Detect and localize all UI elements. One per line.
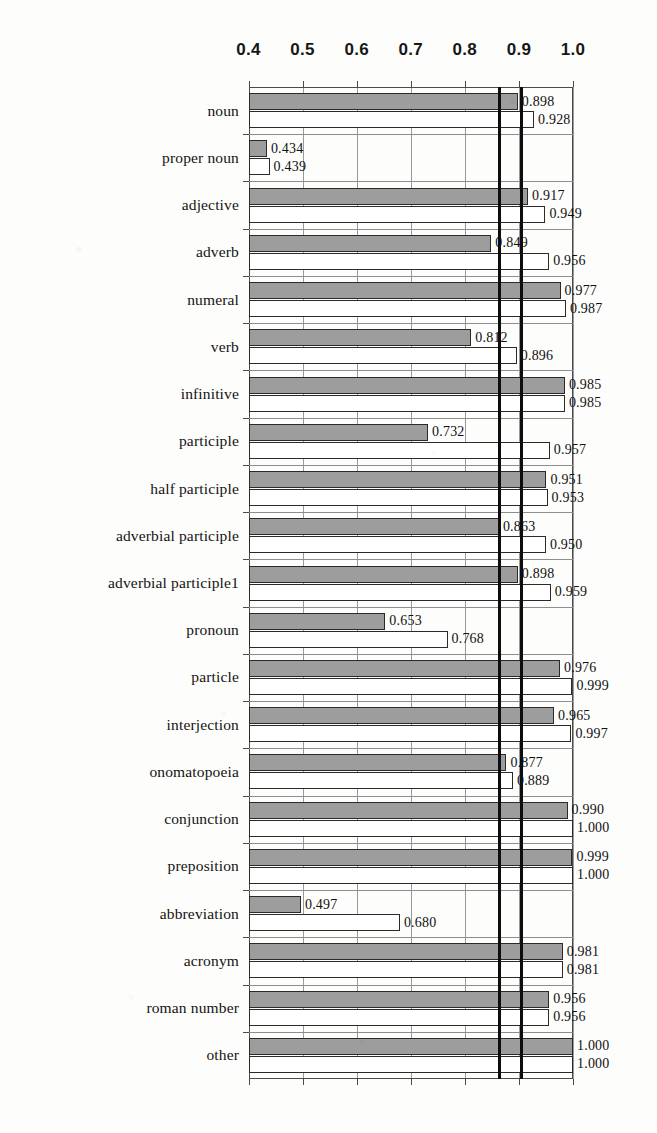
category-separator xyxy=(249,229,573,230)
bar-value-label: 0.877 xyxy=(510,755,543,771)
bar-value-label: 0.953 xyxy=(552,490,585,506)
bar-series-a xyxy=(249,282,561,299)
bar-value-label: 0.977 xyxy=(565,283,598,299)
bar-series-a xyxy=(249,613,385,630)
y-axis-category-label: adverbial participle xyxy=(116,527,239,545)
bar-value-label: 0.981 xyxy=(567,962,600,978)
bar-value-label: 0.956 xyxy=(553,1009,586,1025)
bar-series-b xyxy=(249,1056,573,1073)
bar-series-a xyxy=(249,991,549,1008)
bar-value-label: 0.951 xyxy=(550,472,583,488)
bar-value-label: 0.985 xyxy=(569,377,602,393)
bar-series-b xyxy=(249,631,448,648)
axis-tick xyxy=(411,1079,412,1085)
bar-series-a xyxy=(249,518,499,535)
axis-tick xyxy=(573,1079,574,1085)
bar-value-label: 1.000 xyxy=(577,1056,610,1072)
bar-value-label: 0.928 xyxy=(538,112,571,128)
bar-value-label: 0.956 xyxy=(553,991,586,1007)
y-axis-category-label: other xyxy=(206,1046,239,1064)
axis-tick xyxy=(465,1079,466,1085)
bar-series-a xyxy=(249,93,518,110)
category-separator xyxy=(249,1032,573,1033)
y-axis-category-label: participle xyxy=(179,432,239,450)
x-axis-tick-label: 0.6 xyxy=(344,40,369,60)
bar-value-label: 0.863 xyxy=(503,519,536,535)
plot-right-edge xyxy=(572,87,573,1079)
bar-value-label: 0.985 xyxy=(569,395,602,411)
category-separator xyxy=(249,985,573,986)
y-axis-category-label: half participle xyxy=(150,480,239,498)
bar-value-label: 0.732 xyxy=(432,424,465,440)
y-axis-category-label: verb xyxy=(211,338,239,356)
bar-series-a xyxy=(249,566,518,583)
y-axis-category-label: abbreviation xyxy=(160,905,239,923)
bar-value-label: 0.987 xyxy=(570,301,603,317)
bar-series-a xyxy=(249,754,506,771)
bar-value-label: 0.917 xyxy=(532,188,565,204)
y-axis-category-label: onomatopoeia xyxy=(149,763,239,781)
bar-value-label: 1.000 xyxy=(577,820,610,836)
y-axis-category-label: numeral xyxy=(187,291,239,309)
bar-series-b xyxy=(249,395,565,412)
y-axis-category-label: conjunction xyxy=(164,810,239,828)
y-axis-category-label: interjection xyxy=(167,716,239,734)
bar-series-b xyxy=(249,111,534,128)
bar-series-b xyxy=(249,1009,549,1026)
bar-series-b xyxy=(249,536,546,553)
x-axis-top xyxy=(249,87,573,88)
category-separator xyxy=(249,843,573,844)
bar-series-a xyxy=(249,660,560,677)
bar-value-label: 0.849 xyxy=(495,235,528,251)
bar-series-a xyxy=(249,235,491,252)
y-axis-category-label: preposition xyxy=(168,857,239,875)
bar-value-label: 0.439 xyxy=(274,159,307,175)
bar-value-label: 0.999 xyxy=(576,849,609,865)
bar-series-b xyxy=(249,300,566,317)
bar-series-b xyxy=(249,820,573,837)
bar-value-label: 1.000 xyxy=(577,1038,610,1054)
bar-series-a xyxy=(249,424,428,441)
bar-value-label: 0.957 xyxy=(554,442,587,458)
bar-series-b xyxy=(249,347,517,364)
axis-tick xyxy=(357,1079,358,1085)
category-separator xyxy=(249,465,573,466)
bar-series-b xyxy=(249,442,550,459)
axis-tick xyxy=(519,1079,520,1085)
bar-value-label: 0.889 xyxy=(517,773,550,789)
y-axis-category-label: particle xyxy=(191,668,239,686)
bar-value-label: 0.812 xyxy=(475,330,508,346)
x-axis-tick-label: 1.0 xyxy=(561,40,586,60)
y-axis-category-label: adverbial participle1 xyxy=(108,574,239,592)
bar-series-a xyxy=(249,140,267,157)
bar-value-label: 0.898 xyxy=(522,94,555,110)
bar-value-label: 0.976 xyxy=(564,660,597,676)
y-axis-category-label: noun xyxy=(207,102,239,120)
gridline xyxy=(573,87,574,1079)
y-axis-category-label: acronym xyxy=(184,952,239,970)
axis-tick xyxy=(303,1079,304,1085)
bar-chart: 0.40.50.60.70.80.91.0 nounproper nounadj… xyxy=(0,0,657,1133)
bar-value-label: 0.434 xyxy=(271,141,304,157)
category-separator xyxy=(249,937,573,938)
plot-area: 0.8980.9280.4340.4390.9170.9490.8490.956… xyxy=(249,87,573,1079)
bar-series-a xyxy=(249,896,301,913)
bar-value-label: 0.956 xyxy=(553,253,586,269)
bar-series-b xyxy=(249,867,573,884)
category-separator xyxy=(249,796,573,797)
bar-value-label: 0.999 xyxy=(576,678,609,694)
x-axis-tick-label: 0.7 xyxy=(398,40,423,60)
bar-value-label: 0.950 xyxy=(550,537,583,553)
bar-value-label: 0.896 xyxy=(521,348,554,364)
bar-series-b xyxy=(249,158,270,175)
y-axis-category-label: adverb xyxy=(196,243,239,261)
x-axis-tick-label: 0.8 xyxy=(453,40,478,60)
y-axis-category-label: infinitive xyxy=(181,385,239,403)
bar-series-b xyxy=(249,253,549,270)
bar-value-label: 0.959 xyxy=(555,584,588,600)
bar-series-b xyxy=(249,678,572,695)
bar-series-a xyxy=(249,1038,573,1055)
category-separator xyxy=(249,323,573,324)
category-separator xyxy=(249,276,573,277)
axis-tick xyxy=(249,1079,250,1085)
